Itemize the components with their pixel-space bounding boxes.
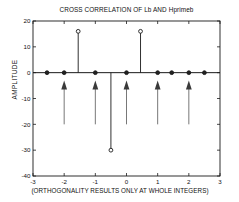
x-tick-label: 1 [156, 178, 160, 185]
data-point-marker [187, 71, 191, 75]
data-point-marker [156, 71, 160, 75]
data-point-marker [203, 71, 207, 75]
stem-lines [78, 31, 140, 150]
y-tick-label: -40 [22, 172, 32, 179]
y-tick-labels: -40-30-20-1001020 [22, 17, 32, 179]
y-tick-label: 0 [27, 69, 31, 76]
data-point-marker [76, 29, 80, 33]
stem-markers [45, 29, 206, 152]
plot-canvas: -3-2-10123 -40-30-20-1001020 [0, 0, 239, 202]
y-tick-label: -20 [22, 121, 32, 128]
y-tick-label: 20 [24, 17, 31, 24]
x-tick-label: 3 [218, 178, 222, 185]
y-tick-label: -30 [22, 146, 32, 153]
data-point-marker [62, 71, 66, 75]
data-point-marker [170, 71, 174, 75]
x-tick-labels: -3-2-10123 [30, 178, 222, 185]
arrow-up-icon [155, 80, 161, 124]
data-point-marker [125, 71, 129, 75]
y-tick-label: 10 [24, 43, 31, 50]
data-point-marker [45, 71, 49, 75]
x-tick-label: 2 [187, 178, 191, 185]
data-point-marker [93, 71, 97, 75]
x-tick-label: -1 [93, 178, 99, 185]
arrow-up-icon [124, 80, 130, 124]
arrow-up-icon [92, 80, 98, 124]
arrow-annotations [61, 80, 191, 124]
x-tick-label: -2 [61, 178, 67, 185]
x-tick-label: -3 [30, 178, 36, 185]
y-tick-label: -10 [22, 95, 32, 102]
arrow-up-icon [186, 80, 192, 124]
data-point-marker [109, 148, 113, 152]
chart-figure: CROSS CORRELATION OF Lb AND Hprimeb AMPL… [0, 0, 239, 202]
arrow-up-icon [61, 80, 67, 124]
x-tick-label: 0 [125, 178, 129, 185]
data-point-marker [139, 29, 143, 33]
